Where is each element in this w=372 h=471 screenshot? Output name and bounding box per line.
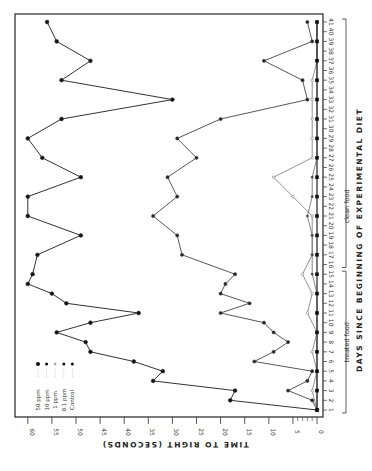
data-point (311, 40, 314, 43)
data-point (311, 399, 314, 402)
data-point (272, 331, 275, 334)
time-tick-label: 35 (149, 428, 156, 436)
series-1-ppm (272, 21, 318, 412)
data-point (262, 59, 265, 62)
day-tick-label: 24 (328, 183, 335, 191)
data-point (315, 98, 319, 102)
data-point (89, 321, 93, 325)
data-point (315, 389, 319, 393)
data-point (315, 408, 319, 412)
data-point (176, 234, 179, 237)
data-point (286, 389, 289, 392)
day-tick-label: 26 (328, 164, 335, 172)
data-point (89, 350, 93, 354)
data-point (311, 79, 314, 82)
data-point (315, 175, 319, 179)
data-point (311, 196, 313, 198)
day-tick-label: 16 (328, 261, 335, 269)
day-tick-label: 13 (328, 290, 335, 298)
day-tick-label: 37 (328, 57, 335, 65)
data-point (306, 20, 309, 23)
data-point (315, 350, 319, 354)
data-point (60, 78, 64, 82)
data-point (224, 282, 227, 285)
data-point (286, 341, 289, 344)
data-point (180, 253, 183, 256)
series-layer (26, 20, 319, 412)
day-tick-label: 18 (328, 241, 335, 249)
data-point (315, 59, 319, 63)
days-axis: 1234567891011121314151617181920212223242… (323, 18, 335, 412)
data-point (315, 137, 319, 141)
rotated-line-chart: 051015202530354045505560 123456789101112… (0, 0, 372, 471)
data-point (26, 195, 30, 199)
data-point (315, 117, 319, 121)
legend-label: 10 ppm (44, 389, 51, 410)
data-point (311, 370, 314, 373)
day-tick-label: 1 (328, 408, 335, 412)
data-point (79, 175, 83, 179)
y-axis-title: TIME TO RIGHT (SECONDS) (101, 440, 249, 449)
day-tick-label: 22 (328, 202, 335, 210)
data-point (311, 98, 314, 101)
data-point (272, 350, 275, 353)
line-1-ppm (274, 22, 317, 410)
day-tick-label: 40 (328, 28, 335, 36)
day-tick-label: 29 (328, 135, 335, 143)
data-point (176, 195, 179, 198)
data-point (311, 273, 313, 275)
day-tick-label: 20 (328, 222, 335, 230)
data-point (315, 253, 319, 257)
data-point (311, 118, 314, 121)
day-tick-label: 9 (328, 330, 335, 334)
day-tick-label: 21 (328, 212, 335, 220)
day-tick-label: 32 (328, 105, 335, 113)
data-point (311, 157, 314, 160)
legend: 50 ppm10 ppm1 ppm0.1 ppmControl (35, 362, 75, 411)
data-point (306, 98, 309, 101)
series-10-ppm (152, 20, 319, 411)
time-tick-label: 50 (77, 428, 84, 436)
data-point (272, 176, 275, 179)
data-point (195, 156, 198, 159)
plot-border (15, 14, 323, 417)
data-point (301, 79, 304, 82)
legend-marker (54, 363, 56, 365)
legend-label: 0.1 ppm (61, 389, 68, 412)
series-control (315, 20, 319, 412)
line-10-ppm (153, 22, 317, 410)
time-tick-label: 45 (101, 428, 108, 436)
day-tick-label: 12 (328, 299, 335, 307)
day-tick-label: 41 (328, 18, 335, 26)
data-point (315, 214, 319, 218)
time-tick-label: 0 (318, 430, 325, 434)
data-point (315, 311, 319, 315)
day-tick-label: 8 (328, 340, 335, 344)
day-tick-label: 11 (328, 309, 335, 317)
data-point (60, 117, 64, 121)
day-tick-label: 30 (328, 125, 335, 133)
legend-label: 50 ppm (35, 389, 42, 410)
data-point (137, 311, 141, 315)
data-point (233, 273, 236, 276)
time-tick-label: 30 (173, 428, 180, 436)
data-point (311, 254, 313, 256)
data-point (306, 215, 308, 217)
day-tick-label: 36 (328, 67, 335, 75)
data-point (311, 215, 314, 218)
data-point (233, 389, 237, 393)
day-tick-label: 5 (328, 369, 335, 373)
data-point (89, 59, 93, 63)
data-point (161, 369, 165, 373)
data-point (315, 40, 319, 44)
data-point (315, 156, 319, 160)
day-tick-label: 33 (328, 96, 335, 104)
data-point (248, 302, 251, 305)
data-point (219, 292, 222, 295)
data-point (311, 351, 314, 354)
data-point (219, 311, 222, 314)
data-point (315, 20, 319, 24)
data-point (315, 78, 319, 82)
time-tick-label: 5 (294, 430, 301, 434)
data-point (45, 20, 49, 24)
